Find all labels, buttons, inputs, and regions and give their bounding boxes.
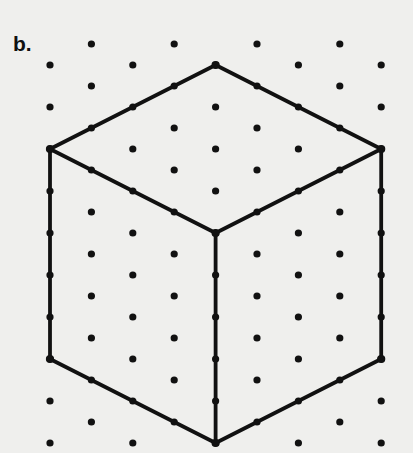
grid-dot bbox=[212, 145, 219, 152]
grid-dot bbox=[253, 292, 260, 299]
cube-vertex-bottom_left bbox=[46, 355, 54, 363]
grid-dot bbox=[253, 40, 260, 47]
grid-dot bbox=[253, 250, 260, 257]
grid-dot bbox=[295, 145, 302, 152]
grid-dot bbox=[88, 40, 95, 47]
grid-dot bbox=[88, 292, 95, 299]
grid-dot bbox=[336, 292, 343, 299]
grid-dot bbox=[295, 313, 302, 320]
grid-dot bbox=[212, 187, 219, 194]
grid-dot bbox=[378, 103, 385, 110]
grid-dot bbox=[129, 145, 136, 152]
grid-dot bbox=[171, 334, 178, 341]
grid-dot bbox=[171, 124, 178, 131]
grid-dot bbox=[253, 376, 260, 383]
cube-edge-bottom-left-to-bottom bbox=[50, 359, 216, 443]
grid-dot bbox=[295, 439, 302, 446]
panel-label: b. bbox=[13, 33, 32, 54]
figure-panel: b. bbox=[0, 0, 413, 453]
grid-dot bbox=[88, 82, 95, 89]
grid-dot bbox=[295, 355, 302, 362]
grid-dot bbox=[46, 61, 53, 68]
grid-dot bbox=[171, 166, 178, 173]
cube-vertex-top bbox=[212, 61, 220, 69]
grid-dot bbox=[295, 61, 302, 68]
cube-edge-top-to-left bbox=[50, 65, 216, 149]
grid-dot bbox=[336, 208, 343, 215]
isometric-dot-grid-figure bbox=[0, 0, 413, 453]
grid-dot bbox=[336, 250, 343, 257]
grid-dot bbox=[171, 376, 178, 383]
grid-dot bbox=[88, 418, 95, 425]
grid-dot bbox=[171, 250, 178, 257]
cube-vertex-left bbox=[46, 145, 54, 153]
grid-dot bbox=[129, 61, 136, 68]
grid-dot bbox=[129, 313, 136, 320]
grid-dot bbox=[253, 334, 260, 341]
grid-dot bbox=[129, 355, 136, 362]
grid-dot bbox=[253, 166, 260, 173]
grid-dot bbox=[129, 229, 136, 236]
grid-dot bbox=[88, 250, 95, 257]
grid-dot bbox=[295, 271, 302, 278]
grid-dot bbox=[129, 439, 136, 446]
grid-dot bbox=[46, 103, 53, 110]
grid-dot bbox=[46, 439, 53, 446]
cube-edge-layer bbox=[50, 65, 381, 443]
grid-dot bbox=[212, 103, 219, 110]
cube-vertex-center bbox=[212, 229, 220, 237]
grid-dot bbox=[88, 334, 95, 341]
cube-edge-bottom-right-to-bottom bbox=[216, 359, 382, 443]
grid-dot bbox=[336, 40, 343, 47]
grid-dot bbox=[253, 124, 260, 131]
grid-dot bbox=[378, 61, 385, 68]
grid-dot bbox=[336, 82, 343, 89]
grid-dot bbox=[378, 439, 385, 446]
grid-dot bbox=[378, 397, 385, 404]
grid-dot bbox=[46, 397, 53, 404]
cube-edge-left-to-center bbox=[50, 149, 216, 233]
cube-vertex-bottom_right bbox=[377, 355, 385, 363]
grid-dot bbox=[129, 271, 136, 278]
cube-vertex-bottom bbox=[212, 439, 220, 447]
grid-dot bbox=[295, 229, 302, 236]
grid-dot bbox=[171, 40, 178, 47]
cube-vertex-right bbox=[377, 145, 385, 153]
grid-dot bbox=[88, 208, 95, 215]
grid-dot bbox=[336, 418, 343, 425]
cube-edge-right-to-center bbox=[216, 149, 382, 233]
grid-dot bbox=[171, 292, 178, 299]
grid-dot bbox=[336, 334, 343, 341]
cube-edge-top-to-right bbox=[216, 65, 382, 149]
